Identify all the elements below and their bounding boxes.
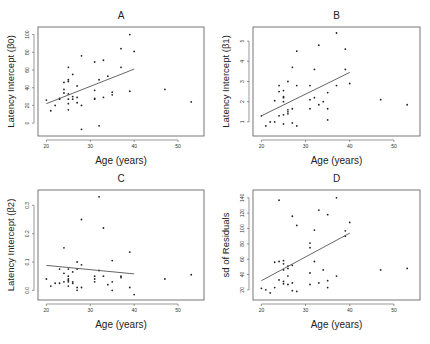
data-point xyxy=(59,268,61,270)
y-tick-label: 1 xyxy=(239,120,245,123)
x-tick-label: 30 xyxy=(87,307,93,313)
data-point xyxy=(164,278,166,280)
data-point xyxy=(327,280,329,282)
plot-frame xyxy=(253,190,420,300)
y-tick-label: 100 xyxy=(24,30,30,39)
data-point xyxy=(103,59,105,61)
y-tick-label: 0.3 xyxy=(24,202,30,209)
y-axis: 020406080100 xyxy=(24,30,34,124)
panel-title: D xyxy=(333,173,340,184)
chart-c: C20304050Age (years)0.00.10.20.3Latency … xyxy=(0,172,215,344)
y-tick-label: 60 xyxy=(24,67,30,73)
data-point xyxy=(76,287,78,289)
data-point xyxy=(120,66,122,68)
y-tick-label: 4 xyxy=(239,60,245,63)
data-point xyxy=(309,99,311,101)
data-point xyxy=(67,109,69,111)
data-point xyxy=(72,98,74,100)
y-tick-label: 80 xyxy=(24,49,30,55)
data-point xyxy=(111,91,113,93)
x-tick-label: 40 xyxy=(131,143,137,149)
data-point xyxy=(190,101,192,103)
data-point xyxy=(327,92,329,94)
data-point xyxy=(336,197,338,199)
data-point xyxy=(344,230,346,232)
y-axis-label: Latency Intercept (β2) xyxy=(5,199,16,292)
data-point xyxy=(54,105,56,107)
y-tick-label: 0 xyxy=(24,122,30,125)
data-point xyxy=(283,123,285,125)
x-tick-label: 40 xyxy=(347,307,353,313)
data-point xyxy=(98,79,100,81)
data-point xyxy=(274,100,276,102)
data-point xyxy=(278,261,280,263)
data-point xyxy=(283,90,285,92)
chart-b: B20304050Age (years)12345Latency Interce… xyxy=(215,0,430,172)
data-point xyxy=(72,96,74,98)
data-point xyxy=(98,196,100,198)
data-point xyxy=(67,285,69,287)
data-point xyxy=(327,119,329,121)
data-point xyxy=(278,279,280,281)
y-tick-label: 3 xyxy=(239,80,245,83)
data-points xyxy=(45,196,192,296)
data-point xyxy=(265,289,267,291)
data-point xyxy=(50,110,52,112)
panel-title: A xyxy=(118,10,125,21)
data-point xyxy=(278,91,280,93)
data-point xyxy=(103,275,105,277)
x-axis-label: Age (years) xyxy=(311,319,363,330)
data-point xyxy=(287,109,289,111)
x-axis: 20304050 xyxy=(44,140,181,149)
y-tick-label: 120 xyxy=(239,209,245,218)
data-point xyxy=(81,105,83,107)
y-tick-label: 20 xyxy=(24,102,30,108)
plot-frame xyxy=(38,27,204,136)
data-point xyxy=(336,85,338,87)
data-point xyxy=(291,215,293,217)
data-points xyxy=(261,32,409,127)
data-point xyxy=(406,267,408,269)
data-point xyxy=(291,66,293,68)
data-point xyxy=(94,98,96,100)
chart-a: A20304050Age (years)020406080100Latency … xyxy=(0,0,215,172)
data-point xyxy=(111,281,113,283)
y-axis: 12345 xyxy=(239,39,249,123)
data-point xyxy=(67,66,69,68)
plot-frame xyxy=(253,27,420,136)
x-tick-label: 20 xyxy=(44,143,50,149)
data-point xyxy=(287,284,289,286)
data-point xyxy=(283,260,285,262)
data-point xyxy=(103,227,105,229)
data-point xyxy=(107,75,109,77)
data-point xyxy=(81,219,83,221)
y-tick-label: 0.1 xyxy=(24,258,30,265)
data-point xyxy=(296,85,298,87)
y-tick-label: 40 xyxy=(239,272,245,278)
data-point xyxy=(129,287,131,289)
x-tick-label: 40 xyxy=(131,307,137,313)
data-point xyxy=(59,282,61,284)
data-point xyxy=(76,97,78,99)
data-point xyxy=(76,102,78,104)
data-point xyxy=(327,287,329,289)
data-point xyxy=(81,55,83,57)
data-point xyxy=(94,281,96,283)
data-point xyxy=(190,274,192,276)
x-axis: 20304050 xyxy=(44,304,181,313)
x-axis: 20304050 xyxy=(259,140,397,149)
data-point xyxy=(283,96,285,98)
data-point xyxy=(111,260,113,262)
data-point xyxy=(344,48,346,50)
data-point xyxy=(349,221,351,223)
data-point xyxy=(67,81,69,83)
data-point xyxy=(309,108,311,110)
y-tick-label: 0.2 xyxy=(24,230,30,237)
y-axis-label: sd of Residuals xyxy=(220,212,231,277)
data-point xyxy=(314,261,316,263)
data-point xyxy=(287,267,289,269)
data-point xyxy=(344,68,346,70)
data-point xyxy=(336,275,338,277)
regression-line xyxy=(261,72,349,115)
data-point xyxy=(76,289,78,291)
